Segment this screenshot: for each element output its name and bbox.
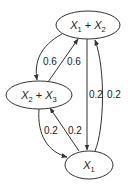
- edge-label-x1-to-x1x2: 0.2: [107, 89, 121, 100]
- edge-label-x1-to-x2x3: 0.2: [68, 125, 82, 136]
- node-x1: X1: [65, 151, 113, 179]
- edge-label-x1x2-to-x1: 0.2: [89, 89, 103, 100]
- edge-label-x2x3-to-x1: 0.2: [44, 125, 58, 136]
- edge-label-x1x2-to-x2x3: 0.6: [43, 56, 57, 67]
- reaction-network-diagram: X1 + X2 X2 + X3 X1 0.6 0.6 0.2 0.2 0.2 0…: [0, 0, 128, 188]
- edge-label-x2x3-to-x1x2: 0.6: [67, 56, 81, 67]
- node-x2-plus-x3: X2 + X3: [6, 81, 72, 109]
- node-x1-plus-x2: X1 + X2: [56, 11, 120, 39]
